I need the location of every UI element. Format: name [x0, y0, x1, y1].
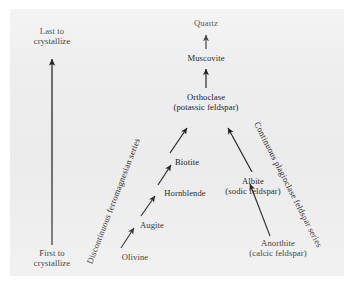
node-anorthite: Anorthite (calcic feldspar) — [249, 238, 306, 259]
node-biotite: Biotite — [175, 157, 199, 167]
node-anorthite-label: Anorthite — [261, 238, 295, 248]
arrow-albite-to-orthoclase — [228, 128, 252, 172]
arrow-biotite-to-orthoclase — [170, 128, 187, 153]
node-orthoclase: Orthoclase (potassic feldspar) — [173, 92, 238, 113]
node-albite: Albite (sodic feldspar) — [225, 176, 280, 197]
node-albite-note: (sodic feldspar) — [225, 186, 280, 196]
node-albite-label: Albite — [242, 176, 264, 186]
node-olivine-label: Olivine — [122, 252, 148, 262]
arrow-layer — [10, 9, 344, 276]
node-muscovite-label: Muscovite — [187, 53, 224, 63]
node-biotite-label: Biotite — [175, 157, 199, 167]
arrow-augite-to-hornblende — [141, 196, 155, 216]
axis-top-caption-line1: Last to — [40, 26, 64, 36]
arrow-hornblende-to-biotite — [158, 165, 171, 185]
node-anorthite-note: (calcic feldspar) — [249, 248, 306, 258]
axis-top-caption: Last to crystallize — [34, 26, 70, 47]
node-orthoclase-label: Orthoclase — [187, 92, 225, 102]
node-quartz: Quartz — [194, 18, 218, 28]
node-augite: Augite — [140, 220, 164, 230]
node-augite-label: Augite — [140, 220, 164, 230]
node-hornblende: Hornblende — [164, 188, 206, 198]
figure-bowens-reaction-series: Last to crystallize First to crystallize… — [0, 0, 354, 286]
node-hornblende-label: Hornblende — [164, 188, 206, 198]
axis-bottom-caption: First to crystallize — [34, 248, 70, 269]
axis-bottom-caption-line1: First to — [39, 248, 64, 258]
axis-top-caption-line2: crystallize — [34, 36, 70, 46]
node-orthoclase-note: (potassic feldspar) — [173, 102, 238, 112]
node-muscovite: Muscovite — [187, 53, 224, 63]
diagram-plate: Last to crystallize First to crystallize… — [10, 9, 344, 276]
node-olivine: Olivine — [122, 252, 148, 262]
axis-bottom-caption-line2: crystallize — [34, 258, 70, 268]
node-quartz-label: Quartz — [194, 18, 218, 28]
arrow-olivine-to-augite — [121, 228, 134, 248]
